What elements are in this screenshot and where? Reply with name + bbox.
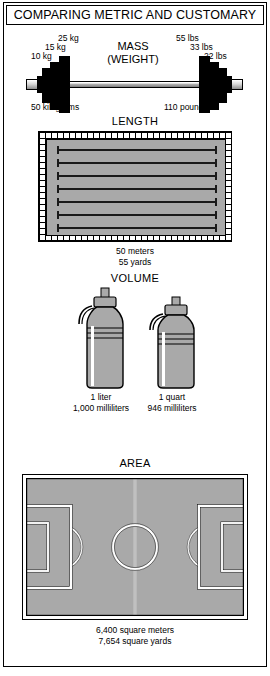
length-captions: 50 meters 55 yards xyxy=(0,246,270,268)
pool-tile-border xyxy=(38,131,232,242)
mass-heading-line2: (WEIGHT) xyxy=(95,53,171,66)
label-plate-22lbs: 22 lbs xyxy=(204,51,227,61)
pool-water xyxy=(46,139,226,236)
volume-right-customary-total: 946 milliliters xyxy=(124,403,220,413)
area-captions: 6,400 square meters 7,654 square yards xyxy=(0,625,270,647)
pool-lane-line xyxy=(58,175,216,177)
section-area: AREA xyxy=(0,455,270,665)
soccer-field-frame xyxy=(22,474,248,620)
volume-left-metric-total: 1 liter xyxy=(64,392,138,402)
infographic-page: COMPARING METRIC AND CUSTOMARY MASS (WEI… xyxy=(0,0,270,676)
section-volume: VOLUME xyxy=(0,268,270,418)
pool-lane-line xyxy=(58,201,216,203)
area-metric-total: 6,400 square meters xyxy=(0,625,270,636)
area-heading: AREA xyxy=(0,457,270,469)
bottle-right-quart xyxy=(141,296,203,390)
title-box: COMPARING METRIC AND CUSTOMARY xyxy=(6,5,264,25)
section-length: LENGTH 50 meters 55 yards xyxy=(0,113,270,268)
volume-right-metric-total: 1 quart xyxy=(135,392,209,402)
mass-heading-line1: MASS xyxy=(95,40,171,53)
mass-customary-total: 110 pounds xyxy=(164,102,208,112)
pool-lane-line xyxy=(58,162,216,164)
bottle-left-liter xyxy=(70,286,132,390)
volume-heading: VOLUME xyxy=(0,272,270,284)
pool-lane-line xyxy=(58,214,216,216)
pool-lane-line xyxy=(58,188,216,190)
pool-lane-line xyxy=(58,227,216,229)
length-heading: LENGTH xyxy=(0,115,270,127)
barbell-bar xyxy=(62,81,208,88)
length-metric-total: 50 meters xyxy=(0,246,270,257)
area-customary-total: 7,654 square yards xyxy=(0,636,270,647)
page-title: COMPARING METRIC AND CUSTOMARY xyxy=(14,8,257,22)
barbell-endcap-right xyxy=(231,79,243,90)
section-mass: MASS (WEIGHT) 25 kg 15 kg 10 kg 55 lbs 3… xyxy=(0,28,270,110)
bottom-source-strip xyxy=(3,669,163,674)
mass-heading: MASS (WEIGHT) xyxy=(95,40,171,65)
pool-lane-line xyxy=(58,149,216,151)
length-customary-total: 55 yards xyxy=(0,257,270,268)
label-plate-10kg: 10 kg xyxy=(31,51,52,61)
soccer-field xyxy=(26,478,244,616)
mass-metric-total: 50 kilograms xyxy=(31,102,79,112)
